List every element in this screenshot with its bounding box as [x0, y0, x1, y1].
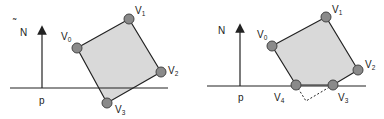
vertex-label-v0: V0 — [257, 29, 268, 41]
vertex-label-v0: V0 — [61, 31, 72, 43]
vertex-v1 — [124, 14, 134, 24]
vertex-v4 — [291, 80, 301, 90]
vertex-label-v2: V2 — [168, 65, 179, 77]
vertex-v2 — [353, 65, 363, 75]
left-panel: N ˜ p V0 V1 V2 V3 — [10, 5, 179, 116]
point-label: p — [39, 95, 45, 106]
vertex-v2 — [156, 67, 166, 77]
vertex-v3 — [102, 98, 112, 108]
normal-label: N — [20, 27, 27, 38]
clipped-away-dotted-edges — [296, 85, 333, 101]
polygon-clipped — [272, 17, 358, 85]
vertex-label-v3: V3 — [338, 92, 349, 104]
vertex-label-v4: V4 — [274, 92, 285, 104]
vertex-label-v3: V3 — [115, 104, 126, 116]
vertex-v1 — [321, 12, 331, 22]
vertex-v3 — [328, 80, 338, 90]
vertex-label-v1: V1 — [135, 5, 146, 17]
point-label: p — [238, 92, 244, 103]
vertex-label-v1: V1 — [332, 4, 343, 16]
vertex-v0 — [72, 43, 82, 53]
normal-label: N — [218, 25, 225, 36]
polygon-clipping-diagram: N ˜ p V0 V1 V2 V3 N p V0 V1 V2 V3 V4 — [0, 0, 384, 119]
polygon-unclipped — [77, 19, 161, 103]
vertex-label-v2: V2 — [365, 59, 376, 71]
normal-vector-bar: ˜ — [12, 17, 17, 28]
right-panel: N p V0 V1 V2 V3 V4 — [207, 4, 376, 104]
vertex-v0 — [267, 41, 277, 51]
